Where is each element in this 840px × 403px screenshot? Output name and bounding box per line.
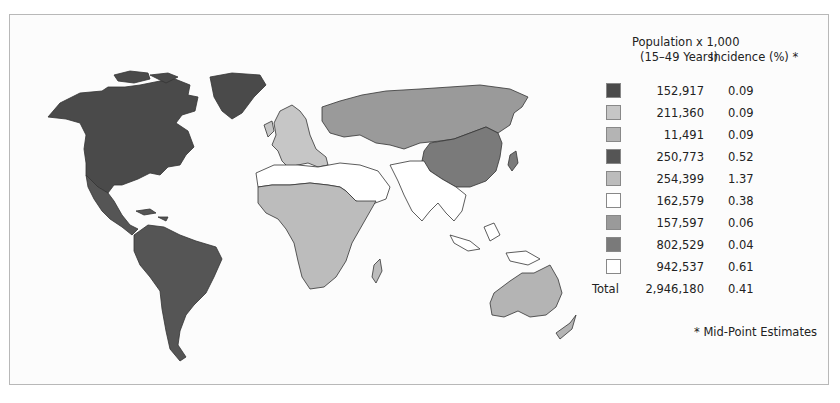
- legend-row: 11,491 0.09: [598, 125, 830, 145]
- legend-swatch: [606, 193, 621, 208]
- incidence-header: Incidence (%) *: [710, 50, 798, 64]
- incidence-value: 0.09: [728, 84, 754, 98]
- incidence-value: 0.61: [728, 260, 754, 274]
- legend-total-row: Total 2,946,180 0.41: [598, 279, 830, 299]
- legend-swatch: [606, 171, 621, 186]
- region-western-europe: [272, 105, 328, 167]
- incidence-value: 0.04: [728, 238, 754, 252]
- population-value: 162,579: [626, 194, 704, 208]
- legend-row: 802,529 0.04: [598, 235, 830, 255]
- legend-swatch: [606, 127, 621, 142]
- incidence-value: 0.52: [728, 150, 754, 164]
- population-value: 211,360: [626, 106, 704, 120]
- legend-row: 250,773 0.52: [598, 147, 830, 167]
- legend-row: 211,360 0.09: [598, 103, 830, 123]
- population-value: 250,773: [626, 150, 704, 164]
- legend-swatch: [606, 237, 621, 252]
- total-incidence: 0.41: [728, 282, 754, 296]
- incidence-value: 0.09: [728, 128, 754, 142]
- legend-row: 162,579 0.38: [598, 191, 830, 211]
- population-value: 157,597: [626, 216, 704, 230]
- map-figure-frame: Population x 1,000 (15–49 Years) Inciden…: [9, 14, 829, 385]
- legend-swatch: [606, 105, 621, 120]
- total-label: Total: [592, 282, 619, 296]
- legend-swatch: [606, 83, 621, 98]
- legend-row: 942,537 0.61: [598, 257, 830, 277]
- legend-swatch: [606, 149, 621, 164]
- population-value: 11,491: [626, 128, 704, 142]
- incidence-value: 0.06: [728, 216, 754, 230]
- world-map: [10, 15, 610, 386]
- population-value: 942,537: [626, 260, 704, 274]
- legend: Population x 1,000 (15–49 Years) Inciden…: [598, 15, 830, 386]
- legend-swatch: [606, 259, 621, 274]
- legend-row: 254,399 1.37: [598, 169, 830, 189]
- incidence-value: 1.37: [728, 172, 754, 186]
- region-greenland: [210, 73, 266, 119]
- population-value: 152,917: [626, 84, 704, 98]
- incidence-value: 0.38: [728, 194, 754, 208]
- legend-row: 157,597 0.06: [598, 213, 830, 233]
- region-north-america: [48, 79, 198, 193]
- footnote: * Mid-Point Estimates: [694, 325, 817, 339]
- population-header-line1: Population x 1,000: [632, 35, 739, 50]
- population-value: 254,399: [626, 172, 704, 186]
- incidence-value: 0.09: [728, 106, 754, 120]
- total-population: 2,946,180: [626, 282, 704, 296]
- population-value: 802,529: [626, 238, 704, 252]
- legend-row: 152,917 0.09: [598, 81, 830, 101]
- legend-swatch: [606, 215, 621, 230]
- region-australia-new-zealand: [490, 265, 562, 317]
